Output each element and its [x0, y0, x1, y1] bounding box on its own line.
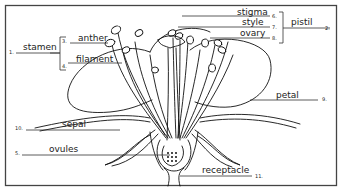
svg-text:petal: petal — [276, 90, 299, 100]
svg-text:stigma: stigma — [237, 7, 268, 17]
svg-text:5.: 5. — [15, 150, 20, 156]
anthers — [104, 24, 227, 73]
label-receptacle: receptacle 11. — [180, 165, 263, 179]
svg-text:11.: 11. — [255, 173, 263, 179]
svg-text:receptacle: receptacle — [202, 165, 250, 175]
svg-text:10.: 10. — [15, 125, 23, 131]
stigma — [158, 36, 185, 48]
label-anther: 3. anther — [62, 33, 108, 44]
sepal-left — [105, 130, 155, 165]
svg-text:pistil: pistil — [291, 17, 312, 27]
petal-right-outline — [190, 39, 271, 107]
svg-text:3.: 3. — [62, 38, 67, 44]
svg-text:style: style — [242, 17, 264, 27]
svg-text:6.: 6. — [272, 13, 277, 19]
svg-text:sepal: sepal — [62, 119, 86, 129]
svg-text:1.: 1. — [9, 49, 14, 55]
petal-lower-left-2 — [40, 120, 150, 131]
flower-illustration — [35, 24, 300, 186]
label-pistil: pistil 2. — [291, 17, 330, 31]
svg-text:filament: filament — [76, 54, 114, 64]
flower-diagram: 1. stamen 3. anther 4. filament 10. sepa… — [0, 0, 341, 194]
svg-text:4.: 4. — [62, 63, 67, 69]
label-filament: 4. filament — [62, 54, 122, 69]
svg-text:8.: 8. — [272, 35, 277, 41]
ovules-dots — [167, 152, 177, 162]
svg-text:9.: 9. — [322, 96, 327, 102]
svg-text:ovary: ovary — [240, 28, 266, 38]
sepal-right-2 — [192, 134, 232, 167]
svg-text:7.: 7. — [272, 24, 277, 30]
petal-lower-right-2 — [200, 119, 296, 128]
ovary-inner — [162, 146, 183, 166]
svg-text:ovules: ovules — [49, 144, 79, 154]
svg-text:2.: 2. — [325, 25, 330, 31]
svg-text:stamen: stamen — [23, 42, 57, 52]
svg-text:anther: anther — [78, 33, 108, 43]
